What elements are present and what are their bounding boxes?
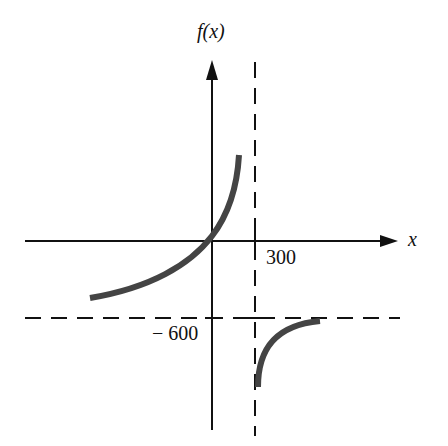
x-axis-label: x bbox=[408, 228, 417, 251]
curve-right-branch bbox=[258, 321, 320, 387]
y-axis-arrow-icon bbox=[206, 60, 218, 80]
tick-label-neg600: − 600 bbox=[152, 322, 198, 345]
x-axis-arrow-icon bbox=[380, 235, 398, 247]
tick-label-300: 300 bbox=[266, 246, 296, 269]
y-axis-label: f(x) bbox=[197, 20, 225, 43]
curve-left-branch bbox=[90, 155, 239, 298]
graph-canvas bbox=[0, 0, 448, 446]
